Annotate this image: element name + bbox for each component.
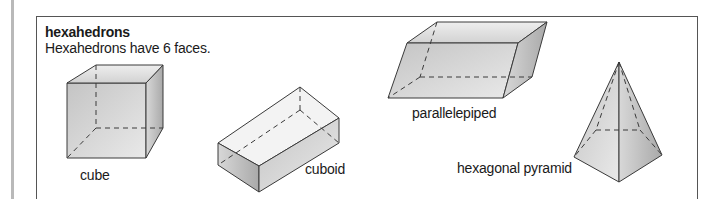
parallelepiped-label: parallelepiped (412, 105, 496, 121)
parallelepiped-shape (388, 22, 547, 98)
cube-shape (67, 65, 163, 158)
cube-label: cube (80, 167, 110, 183)
pyramid-label: hexagonal pyramid (457, 160, 572, 176)
cuboid-label: cuboid (305, 161, 345, 177)
pyramid-shape (574, 62, 662, 182)
